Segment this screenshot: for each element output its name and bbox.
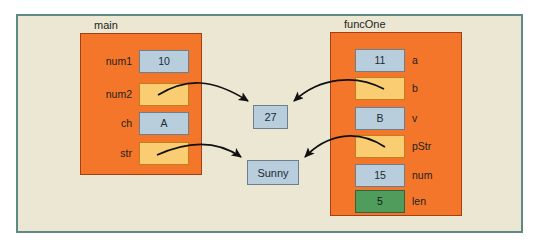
- variable-row-len: 5 len: [355, 189, 426, 213]
- variable-box-num2: [139, 83, 189, 106]
- variable-row-num: 15 num: [355, 163, 432, 187]
- variable-row-v: B v: [355, 106, 417, 130]
- variable-box-b: [355, 77, 405, 100]
- heap-box-string-value: Sunny: [247, 160, 299, 185]
- variable-label-v: v: [405, 112, 417, 124]
- variable-row-str: str: [86, 141, 189, 165]
- variable-label-a: a: [405, 54, 418, 66]
- variable-label-ch: ch: [86, 117, 139, 129]
- variable-label-num: num: [405, 169, 432, 181]
- variable-row-ch: ch A: [86, 111, 189, 135]
- variable-box-a: 11: [355, 49, 405, 72]
- variable-label-b: b: [405, 82, 418, 94]
- variable-box-len: 5: [355, 190, 405, 213]
- variable-label-num1: num1: [86, 55, 139, 67]
- variable-box-v: B: [355, 107, 405, 130]
- variable-box-pstr: [355, 135, 405, 158]
- funcone-frame-title: funcOne: [344, 18, 386, 30]
- variable-row-a: 11 a: [355, 48, 418, 72]
- heap-box-int-value: 27: [253, 105, 288, 129]
- main-frame-title: main: [94, 19, 118, 31]
- variable-label-num2: num2: [86, 88, 139, 100]
- diagram-canvas: main num1 10 num2 ch A str funcOne 11 a …: [0, 0, 541, 249]
- variable-row-pstr: pStr: [355, 134, 431, 158]
- variable-box-str: [139, 142, 189, 165]
- variable-label-str: str: [86, 147, 139, 159]
- variable-box-ch: A: [139, 112, 189, 135]
- variable-label-len: len: [405, 195, 426, 207]
- variable-row-b: b: [355, 76, 418, 100]
- variable-label-pstr: pStr: [405, 140, 431, 152]
- variable-box-num: 15: [355, 164, 405, 187]
- variable-row-num1: num1 10: [86, 49, 189, 73]
- variable-box-num1: 10: [139, 50, 189, 73]
- variable-row-num2: num2: [86, 82, 189, 106]
